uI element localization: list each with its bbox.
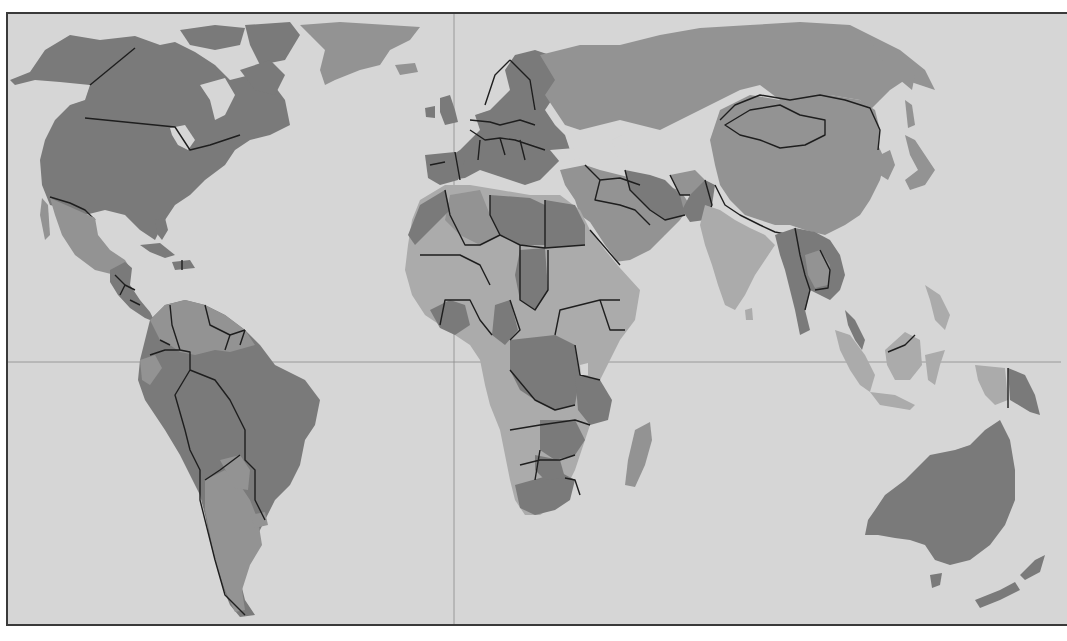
korea bbox=[880, 150, 895, 180]
southeast-asia[interactable] bbox=[775, 228, 845, 335]
sri-lanka bbox=[745, 308, 753, 320]
world-map[interactable] bbox=[6, 12, 1061, 626]
ireland bbox=[425, 106, 435, 118]
arctic-islands bbox=[180, 25, 245, 50]
north-america-landmass[interactable] bbox=[10, 35, 290, 240]
lake-victoria bbox=[580, 363, 588, 375]
cuba bbox=[140, 243, 175, 258]
caspian-sea bbox=[612, 135, 632, 175]
australia[interactable] bbox=[865, 420, 1015, 565]
japan bbox=[905, 135, 935, 190]
greenland[interactable] bbox=[300, 22, 420, 85]
world-map-frame bbox=[6, 12, 1067, 626]
iceland bbox=[395, 63, 418, 75]
arctic-islands bbox=[245, 22, 300, 65]
new-zealand bbox=[975, 555, 1045, 608]
tasmania bbox=[930, 573, 942, 588]
papua-new-guinea bbox=[1008, 368, 1040, 415]
hispaniola bbox=[172, 260, 195, 270]
baja-california bbox=[40, 198, 50, 240]
sakhalin bbox=[905, 100, 915, 128]
uk bbox=[440, 95, 458, 125]
sulawesi bbox=[925, 350, 945, 385]
central-america[interactable] bbox=[110, 262, 155, 322]
philippines bbox=[925, 285, 950, 330]
new-guinea-west bbox=[975, 365, 1008, 405]
florida bbox=[155, 218, 168, 240]
borneo bbox=[885, 332, 922, 380]
iberia bbox=[425, 152, 465, 185]
china[interactable] bbox=[710, 95, 885, 235]
madagascar bbox=[625, 422, 652, 487]
java bbox=[870, 392, 915, 410]
